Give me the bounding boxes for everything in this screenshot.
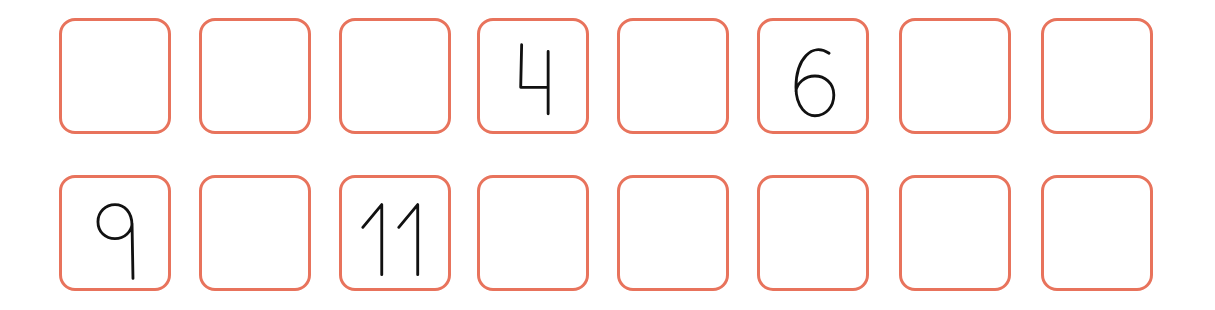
number-input[interactable] [1044, 21, 1154, 133]
number-box-empty[interactable] [199, 175, 311, 291]
number-box-empty[interactable] [199, 18, 311, 134]
number-box-empty[interactable] [617, 175, 729, 291]
digit-4 [480, 21, 586, 131]
number-input[interactable] [202, 21, 312, 133]
number-input[interactable] [620, 178, 730, 290]
number-box-empty[interactable] [477, 175, 589, 291]
number-box-empty[interactable] [1041, 175, 1153, 291]
worksheet-row-1: 46 [0, 18, 1215, 140]
number-input[interactable] [480, 178, 590, 290]
number-box-empty[interactable] [899, 175, 1011, 291]
number-box-filled: 4 [477, 18, 589, 134]
number-box-empty[interactable] [899, 18, 1011, 134]
number-box-empty[interactable] [1041, 18, 1153, 134]
number-box-filled: 6 [757, 18, 869, 134]
number-input[interactable] [62, 21, 172, 133]
number-box-empty[interactable] [339, 18, 451, 134]
digit-11 [342, 178, 448, 288]
number-box-empty[interactable] [757, 175, 869, 291]
number-box-empty[interactable] [617, 18, 729, 134]
digit-9 [62, 178, 168, 288]
number-input[interactable] [1044, 178, 1154, 290]
digit-6 [760, 21, 866, 131]
number-box-filled: 11 [339, 175, 451, 291]
number-input[interactable] [342, 21, 452, 133]
number-input[interactable] [620, 21, 730, 133]
number-input[interactable] [902, 178, 1012, 290]
number-input[interactable] [760, 178, 870, 290]
worksheet-row-2: 911 [0, 175, 1215, 297]
number-box-empty[interactable] [59, 18, 171, 134]
number-input[interactable] [902, 21, 1012, 133]
number-input[interactable] [202, 178, 312, 290]
number-box-filled: 9 [59, 175, 171, 291]
